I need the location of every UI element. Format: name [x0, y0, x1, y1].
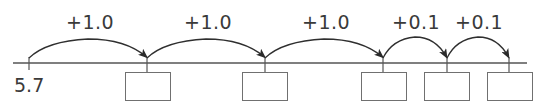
jump-arc-arrow [147, 39, 265, 58]
answer-box[interactable] [361, 72, 407, 101]
tick-marks [29, 57, 509, 72]
jump-label: +0.1 [455, 13, 503, 32]
answer-box[interactable] [242, 72, 288, 101]
jump-arc-arrow [447, 37, 509, 58]
jump-arc-arrow [265, 39, 383, 58]
jump-label: +1.0 [302, 13, 350, 32]
answer-box[interactable] [125, 72, 171, 101]
jump-arc-arrow [383, 37, 447, 58]
answer-box[interactable] [424, 72, 470, 101]
jump-arc-arrow [29, 39, 147, 58]
answer-box[interactable] [487, 72, 533, 101]
jump-label: +1.0 [184, 13, 232, 32]
start-value-label: 5.7 [14, 76, 44, 95]
number-line-diagram: +1.0+1.0+1.0+0.1+0.1 5.7 [0, 0, 544, 102]
jump-label: +0.1 [392, 13, 440, 32]
jump-arcs [29, 37, 509, 58]
jump-label: +1.0 [66, 13, 114, 32]
